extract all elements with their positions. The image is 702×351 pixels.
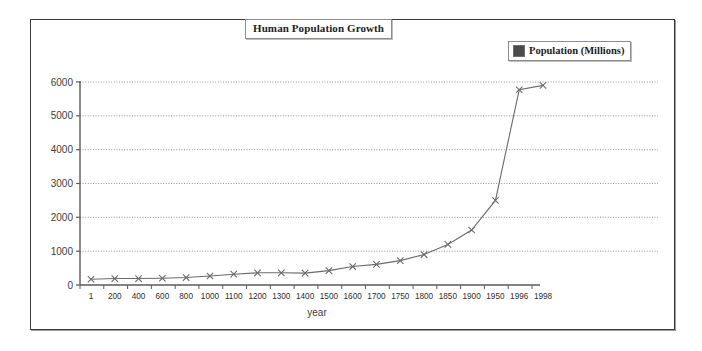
x-tick-label: 1200 (248, 292, 267, 301)
x-tick-label: 1900 (463, 292, 482, 301)
y-tick-label: 4000 (51, 144, 74, 155)
x-tick-label: 1600 (344, 292, 363, 301)
chart-svg: 0100020003000400050006000120040060080010… (30, 19, 675, 330)
chart-title: Human Population Growth (253, 22, 384, 35)
x-tick-label: 1950 (486, 292, 505, 301)
x-tick-label: 800 (179, 292, 193, 301)
x-tick-label: 1850 (439, 292, 458, 301)
x-tick-label: 1998 (534, 292, 553, 301)
y-tick-label: 6000 (51, 77, 74, 88)
y-tick-label: 0 (67, 280, 73, 291)
x-tick-label: 1996 (510, 292, 529, 301)
x-tick-label: 400 (132, 292, 146, 301)
x-tick-label: 1000 (201, 292, 220, 301)
data-point-marker (445, 241, 451, 247)
data-point-marker (421, 251, 427, 257)
y-tick-label: 3000 (51, 178, 74, 189)
y-tick-label: 5000 (51, 110, 74, 121)
x-tick-label: 1800 (415, 292, 434, 301)
data-point-marker (468, 227, 474, 233)
chart-title-box: Human Population Growth (245, 19, 392, 39)
x-tick-label: 1700 (367, 292, 386, 301)
series-line (91, 85, 543, 279)
y-tick-label: 2000 (51, 212, 74, 223)
chart-plot-area: 0100020003000400050006000120040060080010… (30, 19, 675, 330)
x-tick-label: 200 (108, 292, 122, 301)
x-axis-title: year (307, 307, 327, 318)
x-tick-label: 1500 (320, 292, 339, 301)
page-canvas: 0100020003000400050006000120040060080010… (0, 0, 702, 351)
x-tick-label: 1100 (225, 292, 243, 301)
x-tick-label: 1 (89, 292, 94, 301)
chart-legend: Population (Millions) (508, 41, 631, 61)
y-tick-label: 1000 (51, 246, 74, 257)
legend-label: Population (Millions) (529, 45, 624, 57)
x-tick-label: 600 (156, 292, 170, 301)
x-tick-label: 1400 (296, 292, 315, 301)
x-tick-label: 1300 (272, 292, 291, 301)
x-tick-label: 1750 (391, 292, 410, 301)
legend-swatch-icon (513, 45, 525, 57)
